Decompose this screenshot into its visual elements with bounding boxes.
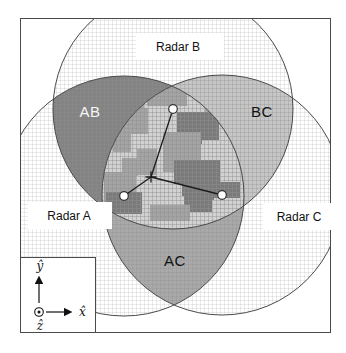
- radar-coverage-figure: Radar B Radar A Radar C AB BC AC ŷ x̂ ẑ: [0, 0, 346, 353]
- radar-b-label: Radar B: [136, 33, 224, 60]
- coordinate-frame-legend: ŷ x̂ ẑ: [21, 258, 96, 334]
- radar-coverage-diagram: Radar B Radar A Radar C AB BC AC ŷ x̂ ẑ: [0, 0, 346, 353]
- y-axis-label: ŷ: [36, 259, 44, 273]
- z-axis-label: ẑ: [36, 319, 44, 333]
- radar-c-position-dot: [218, 191, 227, 200]
- radar-b-label-text: Radar B: [156, 40, 200, 54]
- z-axis-dot: [38, 311, 41, 314]
- axes-legend-box: [21, 258, 96, 333]
- radar-a-position-dot: [120, 192, 129, 201]
- region-bc-label: BC: [251, 103, 273, 120]
- radar-c-label: Radar C: [263, 203, 335, 230]
- region-ac-label: AC: [164, 252, 186, 269]
- radar-b-position-dot: [169, 105, 178, 114]
- radar-a-label: Radar A: [28, 202, 112, 229]
- region-ab-label: AB: [79, 103, 100, 120]
- radar-c-label-text: Radar C: [277, 210, 322, 224]
- radar-a-label-text: Radar A: [47, 209, 90, 223]
- x-axis-label: x̂: [79, 305, 86, 319]
